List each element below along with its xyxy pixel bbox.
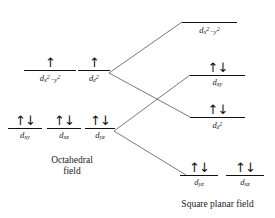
electrons-octahedral-dx2-y2: ↑	[24, 55, 76, 70]
level-square-planar-dyz: ↑↓ dyz	[180, 160, 218, 189]
caption-line-1: Octahedral	[26, 155, 118, 166]
electrons-octahedral-dxz: ↑↓	[47, 113, 81, 128]
level-square-planar-dx2-y2: dx2−y2	[182, 7, 237, 37]
orbital-label-dyz: dyz	[85, 129, 115, 142]
orbital-label-dxz: dxz	[226, 176, 264, 189]
caption-square-planar-field: Square planar field	[160, 199, 275, 210]
orbital-label-dx2-y2: dx2−y2	[182, 23, 237, 37]
orbital-label-dz2: dz2	[78, 71, 110, 85]
orbital-label-dxz: dxz	[47, 129, 81, 142]
electrons-square-planar-dxz: ↑↓	[226, 160, 264, 175]
level-octahedral-dyz: ↑↓ dyz	[85, 113, 115, 142]
orbital-label-dxy: dxy	[190, 76, 245, 89]
level-square-planar-dxy: ↑↓ dxy	[190, 60, 245, 89]
caption-octahedral-field: Octahedral field	[26, 155, 118, 177]
caption-line-2: field	[26, 166, 118, 177]
electrons-square-planar-dz2: ↑↓	[190, 102, 245, 117]
orbital-label-dz2: dz2	[190, 118, 245, 132]
orbital-label-dyz: dyz	[180, 176, 218, 189]
level-square-planar-dxz: ↑↓ dxz	[226, 160, 264, 189]
level-octahedral-dx2-y2: ↑ dx2−y2	[24, 55, 76, 85]
crystal-field-splitting-diagram: ↑ dx2−y2 ↑ dz2 ↑↓ dxy ↑↓ dxz ↑↓ dyz O	[0, 0, 275, 218]
level-octahedral-dz2: ↑ dz2	[78, 55, 110, 85]
electrons-square-planar-dyz: ↑↓	[180, 160, 218, 175]
caption-line-1: Square planar field	[160, 199, 275, 210]
level-octahedral-dxz: ↑↓ dxz	[47, 113, 81, 142]
orbital-label-dxy: dxy	[8, 129, 42, 142]
electrons-octahedral-dyz: ↑↓	[85, 113, 115, 128]
electrons-square-planar-dxy: ↑↓	[190, 60, 245, 75]
electrons-octahedral-dz2: ↑	[78, 55, 110, 70]
electrons-octahedral-dxy: ↑↓	[8, 113, 42, 128]
connector-t2g-to-dxy	[114, 75, 190, 131]
level-square-planar-dz2: ↑↓ dz2	[190, 102, 245, 132]
connector-t2g-to-dyz-dxz	[114, 131, 186, 175]
level-octahedral-dxy: ↑↓ dxy	[8, 113, 42, 142]
connector-dz2-to-dz2	[109, 73, 190, 117]
connector-dz2-to-dx2y2	[109, 22, 182, 73]
orbital-label-dx2-y2: dx2−y2	[24, 71, 76, 85]
